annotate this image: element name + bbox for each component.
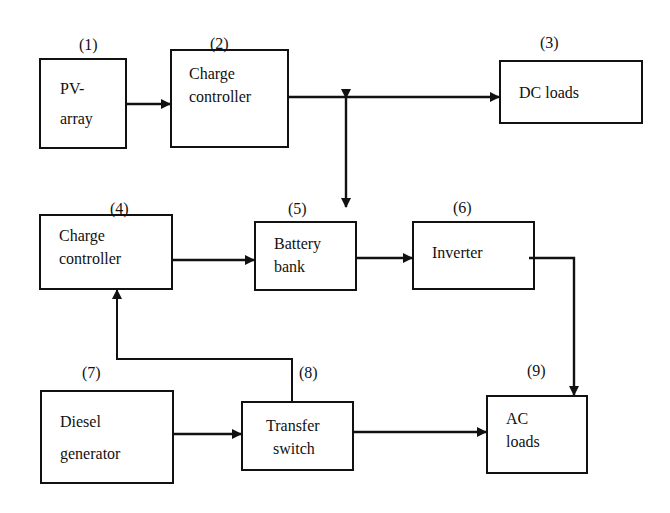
block-battery-bank: Battery bank bbox=[254, 221, 357, 291]
block-inverter: Inverter bbox=[412, 221, 535, 290]
block-number-1: (1) bbox=[79, 37, 98, 53]
block-label-line: array bbox=[60, 107, 93, 130]
block-label-line: generator bbox=[60, 442, 120, 465]
block-label-line: PV- bbox=[60, 77, 84, 100]
block-label-line: loads bbox=[506, 430, 540, 453]
block-ac-loads: AC loads bbox=[486, 395, 588, 474]
block-transfer-switch: Transfer switch bbox=[241, 401, 354, 471]
block-pv-array: PV- array bbox=[39, 58, 127, 149]
block-number-7: (7) bbox=[82, 365, 101, 381]
block-label-line: Diesel bbox=[60, 410, 101, 433]
block-diesel-generator: Diesel generator bbox=[40, 390, 174, 484]
block-label-line: bank bbox=[274, 255, 305, 278]
block-label-line: Charge bbox=[59, 224, 105, 247]
block-dc-loads: DC loads bbox=[499, 60, 643, 124]
block-label-line: switch bbox=[273, 437, 315, 460]
block-label-line: controller bbox=[59, 247, 121, 270]
block-label-line: DC loads bbox=[519, 81, 579, 104]
block-label-line: Charge bbox=[189, 62, 235, 85]
block-label-line: Battery bbox=[274, 232, 321, 255]
block-number-6: (6) bbox=[453, 200, 472, 216]
block-number-9: (9) bbox=[527, 363, 546, 379]
block-label-line: controller bbox=[189, 85, 251, 108]
block-diagram: (1) PV- array (2) Charge controller (3) … bbox=[0, 0, 670, 513]
block-number-3: (3) bbox=[540, 35, 559, 51]
block-number-5: (5) bbox=[288, 201, 307, 217]
block-label-line: Transfer bbox=[266, 414, 320, 437]
block-charge-controller-diesel: Charge controller bbox=[39, 214, 173, 290]
block-charge-controller-pv: Charge controller bbox=[170, 49, 289, 148]
block-number-8: (8) bbox=[299, 365, 318, 381]
block-label-line: AC bbox=[506, 407, 528, 430]
arrow-transfer-switch-to-charge-controller bbox=[117, 290, 292, 401]
block-label-line: Inverter bbox=[432, 241, 483, 264]
